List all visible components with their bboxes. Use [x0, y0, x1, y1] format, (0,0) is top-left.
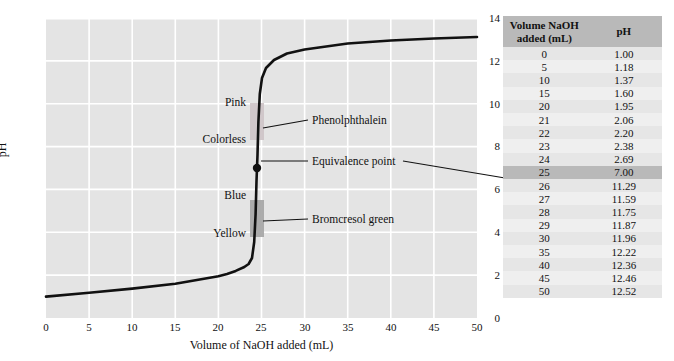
cell-volume: 20 — [503, 100, 586, 113]
cell-ph: 1.60 — [586, 87, 662, 100]
cell-ph: 2.69 — [586, 153, 662, 166]
table-header-row: Volume NaOH added (mL) pH — [503, 16, 662, 47]
cell-ph: 1.95 — [586, 100, 662, 113]
cell-ph: 2.20 — [586, 126, 662, 139]
x-axis-tick: 5 — [74, 322, 104, 333]
x-axis-tick: 0 — [31, 322, 61, 333]
table-row: 232.38 — [503, 139, 662, 152]
cell-ph: 11.59 — [586, 192, 662, 205]
cell-volume: 28 — [503, 205, 586, 218]
cell-ph: 7.00 — [586, 166, 662, 179]
y-axis-title: pH — [0, 143, 10, 158]
table-row: 151.60 — [503, 87, 662, 100]
cell-ph: 2.06 — [586, 113, 662, 126]
table-row: 4512.46 — [503, 271, 662, 284]
table-row: 101.37 — [503, 73, 662, 86]
cell-ph: 12.36 — [586, 258, 662, 271]
cell-volume: 0 — [503, 47, 586, 60]
cell-ph: 2.38 — [586, 139, 662, 152]
cell-ph: 11.29 — [586, 179, 662, 192]
cell-ph: 11.75 — [586, 205, 662, 218]
column-header-volume: Volume NaOH added (mL) — [503, 16, 586, 47]
cell-ph: 11.87 — [586, 219, 662, 232]
cell-volume: 22 — [503, 126, 586, 139]
x-axis-tick: 25 — [246, 322, 276, 333]
column-header-volume-line2: added (mL) — [517, 32, 572, 44]
cell-volume: 29 — [503, 219, 586, 232]
table-row: 2911.87 — [503, 219, 662, 232]
x-axis-tick: 15 — [160, 322, 190, 333]
table-row: 2611.29 — [503, 179, 662, 192]
cell-ph: 11.96 — [586, 232, 662, 245]
titration-curve — [46, 18, 477, 318]
label-pink: Pink — [186, 96, 246, 108]
x-axis-tick: 35 — [333, 322, 363, 333]
table-row: 3512.22 — [503, 245, 662, 258]
cell-volume: 26 — [503, 179, 586, 192]
cell-ph: 1.18 — [586, 60, 662, 73]
x-axis-tick: 10 — [117, 322, 147, 333]
column-header-volume-line1: Volume NaOH — [510, 19, 579, 31]
titration-curve-figure: 14 12 10 8 6 4 2 0 pH — [0, 0, 500, 361]
x-axis-tick: 40 — [376, 322, 406, 333]
x-axis-tick: 20 — [203, 322, 233, 333]
label-bromcresol-green: Bromcresol green — [312, 213, 394, 225]
cell-volume: 10 — [503, 73, 586, 86]
cell-ph: 1.00 — [586, 47, 662, 60]
x-axis-tick: 45 — [419, 322, 449, 333]
label-phenolphthalein: Phenolphthalein — [312, 114, 387, 126]
label-yellow: Yellow — [180, 227, 246, 239]
cell-volume: 45 — [503, 271, 586, 284]
table-row: 5012.52 — [503, 285, 662, 298]
table-row: 4012.36 — [503, 258, 662, 271]
label-colorless: Colorless — [166, 133, 246, 145]
cell-ph: 1.37 — [586, 73, 662, 86]
x-axis-tick: 50 — [462, 322, 492, 333]
equivalence-point-marker — [253, 164, 261, 172]
table-row: 257.00 — [503, 166, 662, 179]
label-blue: Blue — [186, 189, 246, 201]
table-row: 201.95 — [503, 100, 662, 113]
cell-volume: 24 — [503, 153, 586, 166]
cell-volume: 35 — [503, 245, 586, 258]
cell-volume: 40 — [503, 258, 586, 271]
titration-data-table: Volume NaOH added (mL) pH 01.0051.18101.… — [503, 16, 662, 298]
x-axis-tick: 30 — [290, 322, 320, 333]
table-row: 242.69 — [503, 153, 662, 166]
cell-volume: 30 — [503, 232, 586, 245]
table-row: 01.00 — [503, 47, 662, 60]
cell-volume: 15 — [503, 87, 586, 100]
table-row: 51.18 — [503, 60, 662, 73]
cell-volume: 25 — [503, 166, 586, 179]
column-header-ph: pH — [586, 16, 662, 47]
cell-ph: 12.46 — [586, 271, 662, 284]
cell-ph: 12.52 — [586, 285, 662, 298]
cell-ph: 12.22 — [586, 245, 662, 258]
plot-area — [46, 18, 477, 318]
x-axis-title: Volume of NaOH added (mL) — [46, 338, 477, 353]
cell-volume: 27 — [503, 192, 586, 205]
cell-volume: 23 — [503, 139, 586, 152]
table-row: 2711.59 — [503, 192, 662, 205]
label-equivalence-point: Equivalence point — [312, 155, 395, 167]
table-row: 212.06 — [503, 113, 662, 126]
table-row: 3011.96 — [503, 232, 662, 245]
table-row: 222.20 — [503, 126, 662, 139]
table-row: 2811.75 — [503, 205, 662, 218]
cell-volume: 21 — [503, 113, 586, 126]
cell-volume: 50 — [503, 285, 586, 298]
cell-volume: 5 — [503, 60, 586, 73]
